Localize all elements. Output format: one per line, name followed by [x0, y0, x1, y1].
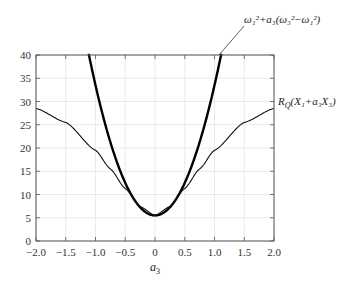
- y-tick-label: 20: [20, 142, 32, 154]
- annotation-thin-curve: RQ(X₁+a₃X₃): [277, 95, 336, 110]
- x-tick-label: −2.0: [26, 246, 46, 258]
- y-tick-label: 35: [20, 72, 32, 84]
- x-tick-label: 0.5: [178, 246, 192, 258]
- x-tick-labels: −2.0−1.5−1.0−0.500.51.01.52.0: [26, 246, 281, 258]
- y-tick-labels: 0510152025303540: [20, 49, 32, 247]
- y-tick-label: 0: [26, 235, 32, 247]
- grid-lines: [36, 55, 274, 241]
- y-tick-label: 25: [20, 119, 32, 131]
- y-tick-label: 5: [26, 212, 32, 224]
- annotation-leader-line: [219, 26, 244, 55]
- x-tick-label: −0.5: [115, 246, 135, 258]
- annotation-thick-curve: ω₁²+a₃(ω₃²−ω₁²): [244, 13, 320, 26]
- y-tick-label: 15: [20, 165, 32, 177]
- y-tick-label: 40: [20, 49, 32, 61]
- x-tick-label: 1.5: [237, 246, 251, 258]
- x-axis-label: a3: [150, 260, 160, 276]
- y-tick-label: 30: [20, 96, 32, 108]
- x-tick-label: 1.0: [208, 246, 222, 258]
- x-tick-label: −1.5: [56, 246, 76, 258]
- x-tick-label: 0: [152, 246, 158, 258]
- y-tick-label: 10: [20, 189, 32, 201]
- chart: −2.0−1.5−1.0−0.500.51.01.52.0 0510152025…: [0, 0, 353, 282]
- x-tick-label: 2.0: [267, 246, 281, 258]
- x-tick-label: −1.0: [86, 246, 106, 258]
